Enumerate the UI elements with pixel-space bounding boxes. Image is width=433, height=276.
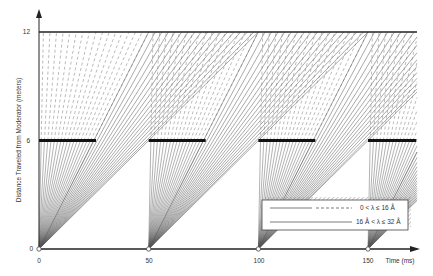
trajectory-line-fast bbox=[51, 32, 63, 141]
trajectory-line-fast bbox=[416, 139, 417, 141]
legend: 0 < λ ≤ 16 Å 16 Å < λ ≤ 32 Å bbox=[262, 197, 411, 230]
trajectory-line-fast bbox=[64, 32, 89, 141]
trajectory-line-fast bbox=[410, 121, 417, 140]
y-tick-6: 6 bbox=[26, 137, 30, 144]
x-tick-150: 150 bbox=[363, 257, 374, 264]
chart-canvas: 12 6 0 0 50 100 150 Time (ms) Distance T… bbox=[0, 0, 433, 276]
legend-label-1: 0 < λ ≤ 16 Å bbox=[360, 203, 395, 211]
x-axis-arrow-icon bbox=[410, 246, 420, 252]
trajectory-line-fast bbox=[41, 32, 43, 141]
pulse-marker-icon bbox=[366, 247, 370, 251]
y-axis-arrow-icon bbox=[36, 9, 42, 18]
trajectory-line-fast bbox=[167, 32, 186, 141]
trajectory-line bbox=[368, 141, 403, 250]
trajectory-line bbox=[368, 141, 413, 250]
y-tick-0: 0 bbox=[29, 245, 33, 252]
pulse-marker-icon bbox=[256, 247, 260, 251]
trajectory-line bbox=[39, 141, 74, 250]
x-tick-50: 50 bbox=[145, 257, 153, 264]
trajectory-line-fast bbox=[84, 32, 129, 141]
trajectory-line-fast bbox=[54, 32, 69, 141]
y-axis-title: Distance Traveled from Moderator (meters… bbox=[15, 78, 23, 202]
trajectory-line-fast bbox=[58, 32, 77, 141]
trajectory-line bbox=[258, 141, 293, 250]
trajectory-line-fast bbox=[387, 32, 406, 141]
trajectory-line-fast bbox=[400, 82, 417, 141]
trajectory-line-fast bbox=[44, 32, 49, 141]
trajectory-line bbox=[39, 141, 84, 250]
x-tick-100: 100 bbox=[254, 257, 265, 264]
trajectory-line-fast bbox=[277, 32, 296, 141]
x-tick-0: 0 bbox=[37, 257, 41, 264]
trajectory-line-fast bbox=[48, 32, 57, 141]
x-axis-title: Time (ms) bbox=[385, 257, 414, 265]
trajectory-line-fast bbox=[91, 32, 143, 141]
legend-label-2: 16 Å < λ ≤ 32 Å bbox=[356, 217, 401, 225]
trajectory-line bbox=[258, 141, 303, 250]
pulse-marker-icon bbox=[37, 247, 41, 251]
trajectory-line-fast bbox=[406, 110, 417, 140]
trajectory-line bbox=[149, 141, 194, 250]
trajectory-line-fast bbox=[77, 32, 115, 141]
trajectory-line bbox=[149, 141, 184, 250]
pulse-marker-icon bbox=[146, 247, 150, 251]
y-tick-12: 12 bbox=[23, 28, 31, 35]
